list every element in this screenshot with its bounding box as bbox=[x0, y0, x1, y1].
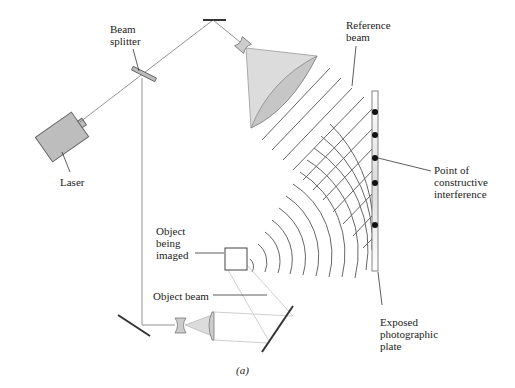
reference-beam-label: Reference beam bbox=[346, 19, 391, 43]
laser-beam bbox=[80, 20, 213, 122]
figure-caption: (a) bbox=[236, 364, 249, 376]
object-beam-label: Object beam bbox=[153, 290, 209, 302]
exposed-plate-label: Exposed photographic plate bbox=[380, 316, 438, 352]
bottom-left-mirror-icon bbox=[118, 315, 150, 336]
object-box bbox=[225, 248, 247, 270]
laser-label: Laser bbox=[60, 176, 84, 188]
beam-splitter-label: Beam splitter bbox=[110, 23, 141, 47]
bottom-lens-icon bbox=[175, 318, 186, 333]
object-imaged-label: Object being imaged bbox=[156, 225, 188, 261]
laser-icon bbox=[35, 109, 92, 162]
right-mirror-icon bbox=[262, 306, 293, 352]
point-constructive-label: Point of constructive interference bbox=[434, 164, 488, 200]
